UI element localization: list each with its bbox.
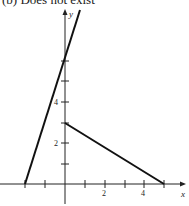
chart-canvas: 2 4 x 2 4 y [0,0,189,206]
y-axis-label: y [68,9,73,19]
x-axis-label: x [180,189,185,199]
y-tick-label-4: 4 [54,98,58,107]
series-segment-2 [65,123,164,184]
x-tick-label-4: 4 [141,189,145,198]
x-axis-arrow-icon [180,182,186,187]
x-tick-label-2: 2 [102,189,106,198]
y-axis-arrow-icon [63,9,68,15]
x-axis: 2 4 x [0,180,186,199]
plot-lines [25,10,164,184]
y-tick-label-2: 2 [54,139,58,148]
series-segment-1 [25,10,80,184]
